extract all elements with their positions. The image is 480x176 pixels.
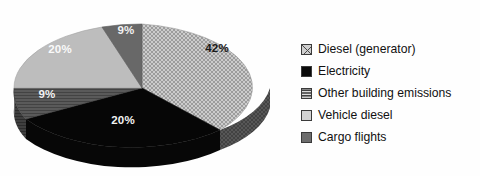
pie-chart-graphic: 42% 20% 9% 20% 9% — [6, 2, 286, 174]
legend-label-cargo-flights: Cargo flights — [318, 131, 386, 144]
pie-label-other-building-emissions: 9% — [38, 88, 55, 100]
legend-label-other-building-emissions: Other building emissions — [318, 87, 451, 100]
legend-item-diesel-generator[interactable]: Diesel (generator) — [301, 38, 477, 60]
chart-legend: Diesel (generator) Electricity Other — [301, 38, 477, 148]
legend-item-electricity[interactable]: Electricity — [301, 60, 477, 82]
legend-label-electricity: Electricity — [318, 65, 370, 78]
legend-item-other-building-emissions[interactable]: Other building emissions — [301, 82, 477, 104]
pie-label-diesel-generator: 42% — [205, 42, 229, 54]
legend-label-vehicle-diesel: Vehicle diesel — [318, 109, 393, 122]
legend-item-vehicle-diesel[interactable]: Vehicle diesel — [301, 104, 477, 126]
pie-label-electricity: 20% — [111, 114, 135, 126]
pie-svg: 42% 20% 9% 20% 9% — [6, 2, 286, 174]
pie-label-vehicle-diesel: 20% — [48, 43, 72, 55]
pie-chart-figure: 42% 20% 9% 20% 9% Diesel (generator) — [0, 0, 480, 176]
swatch-medium-gray-icon — [301, 132, 312, 143]
swatch-light-gray-icon — [301, 110, 312, 121]
swatch-horizontal-stripes-icon — [301, 88, 312, 99]
legend-item-cargo-flights[interactable]: Cargo flights — [301, 126, 477, 148]
swatch-cross-hatch-icon — [301, 44, 312, 55]
swatch-solid-black-icon — [301, 66, 312, 77]
legend-label-diesel-generator: Diesel (generator) — [318, 43, 416, 56]
pie-label-cargo-flights: 9% — [117, 24, 134, 36]
